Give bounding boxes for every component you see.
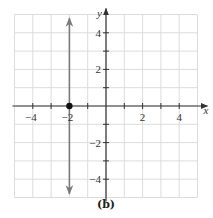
x-tick-label: 4	[176, 111, 182, 123]
x-tick-label: −4	[25, 111, 37, 123]
point-x-intercept	[66, 103, 72, 109]
plot-series	[66, 18, 72, 194]
y-tick-label: 2	[96, 63, 102, 75]
figure-caption: (b)	[97, 198, 115, 211]
coordinate-plane: −4−22442−2−4xy(b)	[0, 0, 213, 218]
x-axis-label: x	[203, 104, 209, 116]
y-tick-label: −4	[89, 173, 101, 185]
x-tick-label: 2	[140, 111, 146, 123]
axes	[13, 9, 208, 202]
y-axis-label: y	[96, 7, 102, 19]
y-tick-label: −2	[89, 137, 101, 149]
y-tick-label: 4	[96, 27, 102, 39]
axis-labels: −4−22442−2−4xy(b)	[25, 7, 209, 212]
x-tick-label: −2	[62, 111, 74, 123]
